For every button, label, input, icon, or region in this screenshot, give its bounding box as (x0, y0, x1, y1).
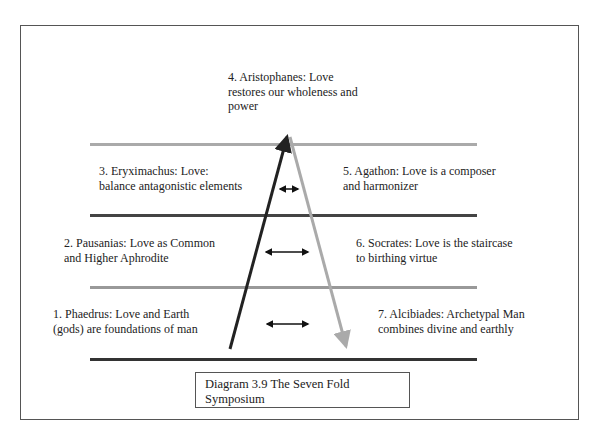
descending-arrow-icon (290, 137, 346, 346)
ascending-arrow-icon (230, 137, 287, 349)
diagram-caption: Diagram 3.9 The Seven Fold Symposium (195, 372, 410, 408)
